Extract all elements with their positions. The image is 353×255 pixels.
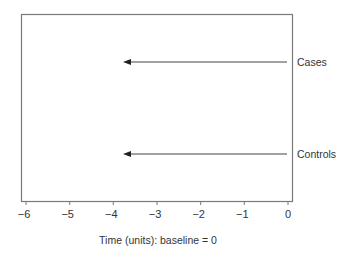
tick-label: −1 — [236, 208, 249, 220]
tick-label: −6 — [18, 208, 31, 220]
cases-arrow — [123, 59, 287, 65]
controls-arrow — [123, 151, 287, 157]
x-tick-labels: −6 −5 −4 −3 −2 −1 0 — [18, 208, 291, 220]
arrowhead-icon — [123, 59, 131, 65]
study-design-diagram: Cases Controls −6 −5 −4 −3 −2 −1 0 Time … — [0, 0, 353, 255]
tick-label: 0 — [285, 208, 291, 220]
cases-label: Cases — [297, 56, 327, 68]
controls-label: Controls — [297, 148, 336, 160]
plot-frame — [22, 15, 293, 202]
arrowhead-icon — [123, 151, 131, 157]
tick-label: −5 — [61, 208, 74, 220]
tick-label: −3 — [149, 208, 162, 220]
tick-label: −4 — [105, 208, 118, 220]
x-axis-title: Time (units): baseline = 0 — [99, 234, 217, 246]
tick-label: −2 — [192, 208, 205, 220]
